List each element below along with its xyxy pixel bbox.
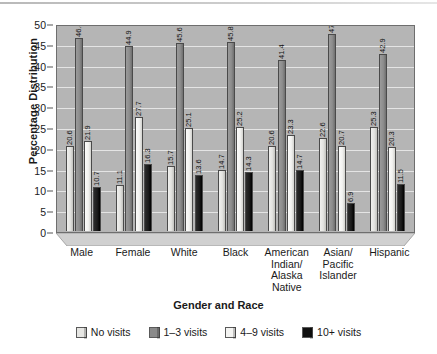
bar-value-label: 46.8	[75, 25, 83, 37]
bar[interactable]: 13.6	[195, 175, 203, 231]
bar-value-label: 20.6	[268, 131, 276, 146]
y-tick-mark	[47, 87, 53, 88]
x-tick-label: Male	[56, 247, 107, 293]
bar[interactable]: 20.3	[388, 147, 396, 231]
bar-value-label: 11.1	[116, 170, 124, 184]
y-tick-label: 15	[6, 165, 46, 177]
bar[interactable]: 46.8	[75, 38, 83, 231]
bar-value-label: 45.6	[176, 28, 184, 43]
bar[interactable]: 14.7	[218, 170, 226, 231]
bar-value-label: 13.6	[195, 159, 203, 174]
bar-value-label: 22.6	[319, 122, 327, 137]
legend-swatch	[76, 327, 87, 338]
legend-item[interactable]: 10+ visits	[302, 326, 361, 338]
y-tick-label: 35	[6, 81, 46, 93]
y-tick-mark	[47, 149, 53, 150]
bar[interactable]: 11.5	[397, 184, 405, 231]
plot-background: 20.646.821.910.711.144.927.716.315.745.6…	[56, 25, 415, 233]
bar[interactable]: 20.7	[338, 146, 346, 231]
y-tick-label: 40	[6, 61, 46, 73]
y-tick-mark	[47, 170, 53, 171]
legend-label: 4–9 visits	[240, 326, 284, 338]
bar[interactable]: 14.7	[296, 170, 304, 231]
axis-floor-3d	[56, 233, 415, 246]
y-tick-label: 10	[6, 185, 46, 197]
bar[interactable]: 23.3	[287, 135, 295, 231]
bar[interactable]: 47.8	[328, 34, 336, 231]
bar[interactable]: 16.3	[144, 164, 152, 231]
y-tick-label: 30	[6, 102, 46, 114]
bar[interactable]: 20.6	[268, 146, 276, 231]
bar-value-label: 21.9	[84, 125, 92, 140]
bar[interactable]: 15.7	[167, 166, 175, 231]
bar[interactable]: 45.8	[227, 42, 235, 231]
bar[interactable]: 45.6	[176, 43, 184, 231]
legend-label: 1–3 visits	[164, 326, 208, 338]
bar-group: 25.342.920.311.5	[362, 27, 413, 231]
bar-group: 14.745.825.214.3	[210, 27, 261, 231]
y-tick-label: 45	[6, 40, 46, 52]
bar-group: 20.646.821.910.7	[58, 27, 109, 231]
legend-label: No visits	[91, 326, 131, 338]
plot-area: 20.646.821.910.711.144.927.716.315.745.6…	[56, 25, 415, 233]
bar-value-label: 23.3	[287, 119, 295, 134]
y-tick-label: 25	[6, 123, 46, 135]
y-tick-mark	[47, 233, 53, 234]
bar-group: 15.745.625.113.6	[159, 27, 210, 231]
bar-value-label: 45.8	[227, 27, 235, 42]
bar-value-label: 11.5	[397, 169, 405, 183]
y-tick-mark	[47, 25, 53, 26]
legend-item[interactable]: 1–3 visits	[149, 326, 208, 338]
chart-legend: No visits1–3 visits4–9 visits10+ visits	[0, 326, 437, 338]
y-tick-label: 50	[6, 19, 46, 31]
x-axis-title: Gender and Race	[0, 299, 437, 311]
bar-group: 20.641.423.314.7	[261, 27, 312, 231]
x-tick-label: Black	[210, 247, 261, 293]
bar[interactable]: 41.4	[278, 60, 286, 231]
y-axis-ticks: 05101520253035404550	[0, 25, 56, 233]
y-tick-label: 5	[6, 206, 46, 218]
legend-label: 10+ visits	[317, 326, 361, 338]
bar[interactable]: 25.2	[236, 127, 244, 231]
legend-item[interactable]: 4–9 visits	[225, 326, 284, 338]
legend-item[interactable]: No visits	[76, 326, 131, 338]
bar[interactable]: 42.9	[379, 54, 387, 231]
y-tick-mark	[47, 108, 53, 109]
x-tick-label: Asian/PacificIslander	[312, 247, 363, 293]
x-tick-label: Hispanic	[364, 247, 415, 293]
y-tick-mark	[47, 191, 53, 192]
x-axis-labels: MaleFemaleWhiteBlackAmericanIndian/Alask…	[56, 247, 415, 293]
y-tick-mark	[47, 212, 53, 213]
bar-value-label: 25.2	[236, 112, 244, 127]
y-tick-mark	[47, 129, 53, 130]
bar-value-label: 25.3	[370, 111, 378, 126]
y-tick-label: 20	[6, 144, 46, 156]
bar-value-label: 14.3	[245, 156, 253, 171]
x-tick-label: Female	[107, 247, 158, 293]
bar[interactable]: 27.7	[135, 117, 143, 231]
bar-value-label: 27.7	[135, 101, 143, 116]
bar-group: 22.647.820.76.9	[312, 27, 363, 231]
bar[interactable]: 20.6	[66, 146, 74, 231]
legend-swatch	[302, 327, 313, 338]
bar-value-label: 47.8	[328, 25, 336, 33]
bar[interactable]: 10.7	[93, 187, 101, 231]
x-tick-label: White	[159, 247, 210, 293]
bar-value-label: 20.3	[388, 132, 396, 147]
bar[interactable]: 25.1	[185, 128, 193, 231]
bar[interactable]: 11.1	[116, 185, 124, 231]
bar[interactable]: 44.9	[125, 46, 133, 231]
bar-groups: 20.646.821.910.711.144.927.716.315.745.6…	[58, 27, 413, 231]
bar[interactable]: 14.3	[245, 172, 253, 231]
bar-value-label: 25.1	[185, 112, 193, 127]
chart-figure: Percentage Distribution 0510152025303540…	[0, 0, 437, 354]
bar-value-label: 20.7	[338, 130, 346, 145]
bar[interactable]: 6.9	[347, 203, 355, 231]
bar[interactable]: 22.6	[319, 138, 327, 231]
bar[interactable]: 21.9	[84, 141, 92, 231]
bar-value-label: 6.9	[347, 191, 355, 201]
bar[interactable]: 25.3	[370, 127, 378, 231]
gridline	[57, 25, 414, 26]
bar-value-label: 14.7	[218, 155, 226, 170]
bar-value-label: 15.7	[167, 151, 175, 166]
